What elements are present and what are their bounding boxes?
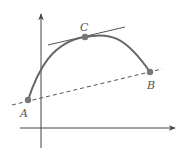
point-a [25, 97, 31, 103]
label-a: A [19, 107, 28, 120]
point-b [147, 69, 153, 75]
label-c: C [80, 21, 89, 34]
mvt-diagram: A C B [0, 0, 186, 155]
label-b: B [146, 79, 155, 92]
point-c [82, 34, 88, 40]
secant-line-ab [12, 69, 162, 105]
function-curve [28, 35, 150, 100]
